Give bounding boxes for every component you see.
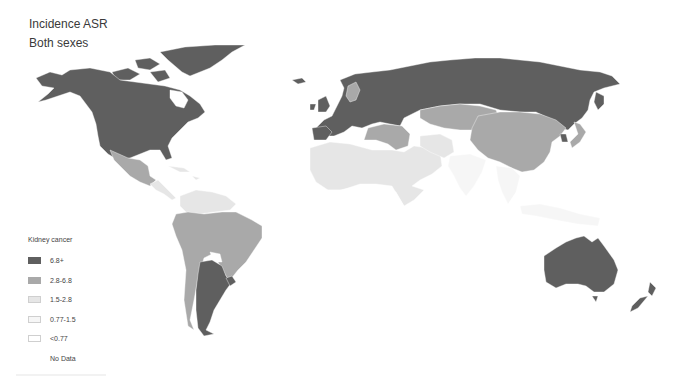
map-title: Incidence ASR xyxy=(29,17,108,31)
region-new-zealand[interactable] xyxy=(630,282,656,312)
region-south-asia[interactable] xyxy=(448,154,486,196)
legend-label: <0.77 xyxy=(50,335,68,342)
region-iceland[interactable] xyxy=(292,78,306,84)
region-northern-south-america[interactable] xyxy=(180,190,236,214)
legend-swatch xyxy=(28,335,41,342)
legend: Kidney cancer 6.8+ 2.8-6.8 1.5-2.8 0.77-… xyxy=(28,236,76,368)
legend-item[interactable]: No Data xyxy=(28,349,76,369)
legend-swatch xyxy=(28,257,41,264)
legend-label: 0.77-1.5 xyxy=(50,316,76,323)
region-caribbean[interactable] xyxy=(168,166,200,180)
legend-swatch xyxy=(28,296,41,303)
legend-label: No Data xyxy=(50,355,76,362)
region-sub-saharan-africa[interactable] xyxy=(320,186,404,274)
world-choropleth-map xyxy=(0,0,680,378)
region-arctic-islands[interactable] xyxy=(112,58,170,82)
legend-item[interactable]: 0.77-1.5 xyxy=(28,310,76,330)
region-kamchatka[interactable] xyxy=(594,92,604,110)
legend-item[interactable]: 6.8+ xyxy=(28,251,76,271)
region-japan[interactable] xyxy=(570,122,586,148)
region-central-america[interactable] xyxy=(150,180,176,200)
legend-title: Kidney cancer xyxy=(28,236,76,243)
map-subtitle: Both sexes xyxy=(29,36,88,50)
footer-line xyxy=(16,374,106,376)
legend-label: 2.8-6.8 xyxy=(50,277,72,284)
region-north-america[interactable] xyxy=(36,68,205,160)
legend-label: 6.8+ xyxy=(50,257,64,264)
region-greenland[interactable] xyxy=(160,45,245,76)
legend-swatch xyxy=(28,316,41,323)
region-australia[interactable] xyxy=(544,236,618,292)
legend-item[interactable]: 2.8-6.8 xyxy=(28,271,76,291)
legend-swatch xyxy=(28,277,41,284)
legend-swatch xyxy=(28,355,41,362)
legend-label: 1.5-2.8 xyxy=(50,296,72,303)
legend-item[interactable]: <0.77 xyxy=(28,329,76,349)
region-southeast-asia[interactable] xyxy=(496,166,600,226)
region-south-korea[interactable] xyxy=(560,134,568,142)
region-tasmania[interactable] xyxy=(592,296,598,302)
region-madagascar[interactable] xyxy=(404,234,410,254)
region-uk-ireland[interactable] xyxy=(310,96,330,112)
legend-item[interactable]: 1.5-2.8 xyxy=(28,290,76,310)
region-turkey-middle-east[interactable] xyxy=(364,124,410,150)
